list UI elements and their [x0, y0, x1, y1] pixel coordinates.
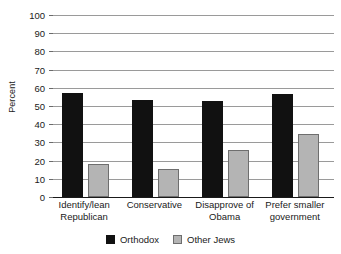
x-axis-label: Prefer smallergovernment [260, 199, 330, 222]
y-axis-tick-label: 100 [29, 10, 45, 21]
x-axis-label-line: government [260, 211, 330, 223]
bar-orthodox [132, 100, 153, 197]
y-axis-tick-label: 30 [34, 137, 45, 148]
bar-other [228, 150, 249, 197]
legend-item-orthodox: Orthodox [106, 234, 159, 245]
plot-area: 1009080706050403020100 [53, 15, 334, 197]
x-axis-label: Disapprove ofObama [190, 199, 260, 222]
chart-legend: OrthodoxOther Jews [0, 234, 341, 245]
x-axis-labels: Identify/leanRepublicanConservativeDisap… [53, 199, 334, 233]
y-axis-title: Percent [7, 67, 17, 127]
legend-swatch-icon [173, 235, 182, 244]
x-axis-baseline [53, 197, 334, 198]
legend-label: Other Jews [187, 234, 235, 245]
bar-orthodox [62, 93, 83, 197]
y-axis-tick-label: 60 [34, 82, 45, 93]
x-axis-label: Identify/leanRepublican [49, 199, 119, 222]
y-axis-tick-label: 50 [34, 101, 45, 112]
y-axis-tick-label: 0 [40, 192, 45, 203]
x-axis-label-line: Identify/lean [49, 199, 119, 211]
x-axis-label-line: Disapprove of [190, 199, 260, 211]
legend-label: Orthodox [120, 234, 159, 245]
y-axis-tick-label: 80 [34, 46, 45, 57]
bar-other [88, 164, 109, 197]
y-axis-tick-label: 20 [34, 155, 45, 166]
legend-item-other: Other Jews [173, 234, 235, 245]
x-axis-label-line: Obama [190, 211, 260, 223]
x-axis-label-line: Republican [49, 211, 119, 223]
bar-orthodox [272, 94, 293, 197]
bar-other [298, 134, 319, 197]
legend-swatch-icon [106, 235, 115, 244]
y-axis-tick-label: 10 [34, 173, 45, 184]
x-axis-label-line: Prefer smaller [260, 199, 330, 211]
y-axis-tick-label: 40 [34, 119, 45, 130]
bar-other [158, 169, 179, 197]
x-axis-label-line: Conservative [119, 199, 189, 211]
x-axis-label: Conservative [119, 199, 189, 211]
y-axis-tick-label: 90 [34, 28, 45, 39]
y-axis-tick-label: 70 [34, 64, 45, 75]
bar-chart: Percent 1009080706050403020100 Identify/… [0, 0, 341, 254]
y-axis-tick [49, 197, 53, 198]
bars-group [53, 15, 334, 197]
bar-orthodox [202, 101, 223, 197]
